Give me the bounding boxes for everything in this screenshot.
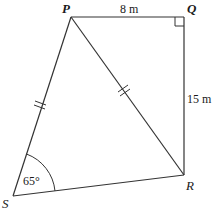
length-label-QR: 15 m — [187, 92, 212, 106]
side-SP — [13, 17, 71, 196]
equal-ticks-PS — [34, 101, 46, 109]
angle-label-S: 65° — [23, 174, 40, 188]
vertex-label-S: S — [2, 196, 9, 210]
right-angle-marker — [175, 17, 184, 26]
vertex-label-P: P — [62, 1, 71, 16]
quadrilateral-diagram: P Q R S 8 m 15 m 65° — [0, 0, 213, 210]
length-label-PQ: 8 m — [120, 2, 139, 16]
diagonal-PR — [71, 17, 184, 175]
vertex-label-R: R — [185, 178, 194, 193]
vertex-label-Q: Q — [187, 1, 197, 16]
